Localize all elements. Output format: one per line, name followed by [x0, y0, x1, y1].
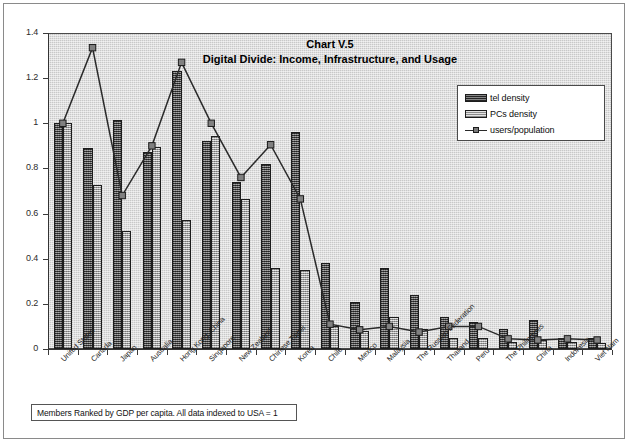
y-axis-tick-label: 0.8	[26, 162, 38, 172]
legend-swatch-users-population-icon	[465, 126, 487, 135]
x-axis-tick	[345, 350, 346, 355]
y-axis-tick-label: 1	[33, 117, 38, 127]
x-axis-tick	[226, 350, 227, 355]
bar-tel	[558, 338, 567, 349]
bar-tel	[410, 295, 419, 349]
y-axis-tick	[43, 214, 49, 215]
x-axis-tick	[493, 350, 494, 355]
y-axis-tick-label: 0.4	[26, 253, 38, 263]
legend-item-tel-density: tel density	[465, 90, 599, 106]
legend-item-pcs-density: PCs density	[465, 106, 599, 122]
bar-tel	[113, 120, 122, 349]
x-axis-tick	[137, 350, 138, 355]
legend-swatch-tel-density-icon	[465, 94, 487, 102]
y-axis-tick	[43, 123, 49, 124]
y-axis-tick	[43, 259, 49, 260]
x-axis-tick	[315, 350, 316, 355]
bar-tel	[54, 123, 63, 349]
y-axis-tick-label: 0	[33, 343, 38, 353]
bar-pcs	[93, 185, 102, 349]
legend-swatch-pcs-density-icon	[465, 110, 487, 118]
legend-label-pcs-density: PCs density	[490, 109, 537, 119]
bar-pcs	[63, 123, 72, 349]
x-axis-tick	[404, 350, 405, 355]
x-axis-tick	[48, 350, 49, 355]
x-axis-tick	[434, 350, 435, 355]
chart-subtitle: Digital Divide: Income, Infrastructure, …	[48, 53, 612, 65]
bar-pcs	[152, 147, 161, 349]
x-axis-tick	[523, 350, 524, 355]
y-axis-tick	[43, 78, 49, 79]
bar-pcs	[300, 270, 309, 349]
bar-tel	[83, 148, 92, 349]
legend-label-users-population: users/population	[490, 125, 554, 135]
bar-tel	[291, 132, 300, 349]
bar-pcs	[241, 199, 250, 349]
plot-area	[48, 33, 612, 349]
chart-container: 00.20.40.60.811.21.4 United StatesCanada…	[0, 0, 630, 444]
y-axis-tick-label: 0.2	[26, 298, 38, 308]
bar-tel	[232, 182, 241, 349]
chart-footnote: Members Ranked by GDP per capita. All da…	[31, 404, 297, 421]
y-axis-tick	[43, 33, 49, 34]
bar-tel	[321, 263, 330, 349]
x-axis-tick	[582, 350, 583, 355]
chart-legend: tel density PCs density users/population	[457, 85, 605, 141]
y-axis-tick-label: 1.2	[26, 72, 38, 82]
bar-tel	[380, 268, 389, 349]
y-axis-tick-label: 0.6	[26, 208, 38, 218]
bar-tel	[469, 322, 478, 349]
chart-title: Chart V.5	[48, 38, 612, 50]
bar-pcs	[271, 268, 280, 349]
bar-tel	[143, 152, 152, 350]
bar-tel	[350, 302, 359, 349]
y-axis-line	[48, 33, 49, 350]
bar-tel	[499, 329, 508, 349]
y-axis-tick	[43, 168, 49, 169]
legend-label-tel-density: tel density	[490, 93, 529, 103]
plot-background-texture	[49, 34, 611, 348]
y-axis-tick	[43, 304, 49, 305]
y-axis-tick-label: 1.4	[26, 27, 38, 37]
x-axis-tick	[612, 350, 613, 355]
bar-tel	[202, 141, 211, 349]
bar-pcs	[122, 231, 131, 350]
bar-pcs	[182, 220, 191, 349]
bar-tel	[261, 164, 270, 349]
bar-tel	[172, 71, 181, 349]
legend-item-users-population: users/population	[465, 122, 599, 138]
footnote-text: Members Ranked by GDP per capita. All da…	[37, 408, 278, 418]
